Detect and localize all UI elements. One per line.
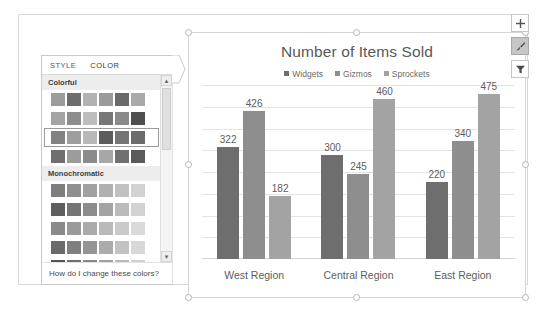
color-palette-row[interactable]	[44, 128, 159, 147]
selection-handle-bottom-left[interactable]	[185, 294, 192, 301]
selection-handle-bottom-right[interactable]	[522, 294, 529, 301]
bar-rect[interactable]	[321, 155, 343, 259]
color-swatch[interactable]	[51, 131, 65, 144]
color-swatch[interactable]	[99, 93, 113, 106]
color-swatch[interactable]	[131, 203, 145, 216]
selection-handle-middle-right[interactable]	[522, 161, 529, 168]
color-swatch[interactable]	[83, 203, 97, 216]
color-swatch[interactable]	[99, 112, 113, 125]
color-swatch[interactable]	[99, 241, 113, 254]
color-swatch[interactable]	[51, 93, 65, 106]
scroll-up-icon[interactable]: ▲	[161, 75, 172, 86]
scrollbar-thumb[interactable]	[162, 88, 171, 150]
scroll-down-icon[interactable]: ▼	[161, 251, 172, 262]
bar-column[interactable]: 300	[321, 85, 343, 259]
bar-column[interactable]: 340	[452, 85, 474, 259]
selection-handle-bottom-center[interactable]	[353, 294, 360, 301]
category-axis-labels[interactable]: West RegionCentral RegionEast Region	[202, 263, 515, 287]
color-swatch[interactable]	[83, 184, 97, 197]
bar-column[interactable]: 475	[478, 85, 500, 259]
color-swatch[interactable]	[83, 112, 97, 125]
bar-column[interactable]: 220	[426, 85, 448, 259]
color-swatch[interactable]	[67, 222, 81, 235]
color-swatch[interactable]	[99, 203, 113, 216]
color-swatch[interactable]	[51, 241, 65, 254]
selection-handle-top-center[interactable]	[353, 29, 360, 36]
color-swatch[interactable]	[131, 222, 145, 235]
chart-color-pane[interactable]: STYLECOLOR ColorfulMonochromatic ▲ ▼ How…	[41, 55, 173, 285]
bar-rect[interactable]	[347, 174, 369, 259]
bar-column[interactable]: 182	[269, 85, 291, 259]
color-swatch[interactable]	[115, 112, 129, 125]
color-swatch[interactable]	[51, 150, 65, 163]
color-swatch[interactable]	[115, 150, 129, 163]
color-swatch[interactable]	[67, 150, 81, 163]
color-swatch[interactable]	[115, 222, 129, 235]
color-palette-row[interactable]	[44, 90, 159, 109]
color-swatch[interactable]	[115, 203, 129, 216]
chart-styles-button[interactable]	[511, 37, 529, 55]
color-palette-row[interactable]	[44, 147, 159, 166]
bar-column[interactable]: 322	[217, 85, 239, 259]
color-swatch[interactable]	[115, 241, 129, 254]
color-swatch[interactable]	[131, 241, 145, 254]
color-swatch[interactable]	[83, 222, 97, 235]
color-palette-row[interactable]	[44, 200, 159, 219]
legend-item[interactable]: Widgets	[284, 68, 323, 79]
color-swatch[interactable]	[131, 93, 145, 106]
pane-tab-color[interactable]: COLOR	[90, 61, 119, 70]
swatch-group-header: Colorful	[42, 75, 161, 90]
color-palette-row[interactable]	[44, 109, 159, 128]
color-swatch[interactable]	[51, 203, 65, 216]
color-swatch[interactable]	[67, 112, 81, 125]
color-swatch[interactable]	[83, 93, 97, 106]
color-swatch[interactable]	[83, 150, 97, 163]
color-swatch[interactable]	[51, 222, 65, 235]
selection-handle-middle-left[interactable]	[185, 161, 192, 168]
color-swatch[interactable]	[83, 241, 97, 254]
chart-object[interactable]: Number of Items Sold WidgetsGizmosSprock…	[188, 32, 526, 298]
color-palette-row[interactable]	[44, 238, 159, 257]
color-swatch[interactable]	[67, 93, 81, 106]
color-swatch[interactable]	[99, 150, 113, 163]
legend-item[interactable]: Gizmos	[335, 68, 372, 79]
color-swatch[interactable]	[115, 93, 129, 106]
chart-filters-button[interactable]	[511, 60, 529, 78]
color-swatch[interactable]	[131, 150, 145, 163]
color-swatch[interactable]	[51, 112, 65, 125]
color-swatch[interactable]	[67, 184, 81, 197]
selection-handle-top-left[interactable]	[185, 29, 192, 36]
color-swatch[interactable]	[67, 203, 81, 216]
bar-column[interactable]: 245	[347, 85, 369, 259]
color-palette-row[interactable]	[44, 181, 159, 200]
bar-rect[interactable]	[478, 94, 500, 259]
color-swatch[interactable]	[99, 222, 113, 235]
chart-elements-button[interactable]	[511, 14, 529, 32]
color-swatch[interactable]	[99, 184, 113, 197]
legend-item[interactable]: Sprockets	[384, 68, 430, 79]
color-palette-row[interactable]	[44, 219, 159, 238]
color-swatch[interactable]	[67, 131, 81, 144]
color-swatch[interactable]	[131, 131, 145, 144]
color-swatch[interactable]	[99, 131, 113, 144]
chart-legend[interactable]: WidgetsGizmosSprockets	[189, 68, 525, 79]
bar-rect[interactable]	[269, 196, 291, 259]
bar-rect[interactable]	[243, 111, 265, 259]
color-swatch[interactable]	[131, 112, 145, 125]
color-swatch[interactable]	[83, 131, 97, 144]
chart-title[interactable]: Number of Items Sold	[189, 43, 525, 61]
bar-rect[interactable]	[217, 147, 239, 259]
color-swatch[interactable]	[131, 184, 145, 197]
pane-tab-style[interactable]: STYLE	[50, 61, 76, 70]
pane-scrollbar[interactable]: ▲ ▼	[160, 75, 172, 262]
color-swatch[interactable]	[115, 131, 129, 144]
how-do-i-change-colors-link[interactable]: How do I change these colors?	[49, 269, 159, 278]
color-swatch[interactable]	[51, 184, 65, 197]
bar-column[interactable]: 426	[243, 85, 265, 259]
bar-column[interactable]: 460	[373, 85, 395, 259]
color-swatch[interactable]	[67, 241, 81, 254]
color-swatch[interactable]	[115, 184, 129, 197]
bar-rect[interactable]	[373, 99, 395, 259]
bar-rect[interactable]	[426, 182, 448, 259]
bar-rect[interactable]	[452, 141, 474, 259]
